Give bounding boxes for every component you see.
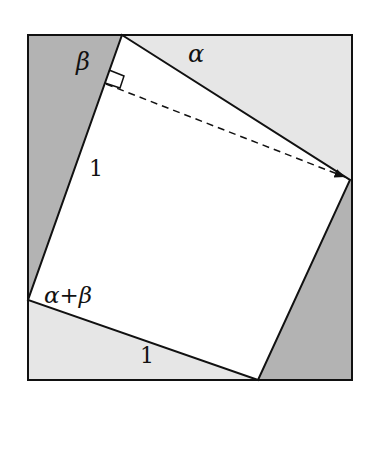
label-alpha: α (188, 40, 204, 68)
label-angle-sum: α+β (44, 282, 92, 308)
label-beta: β (75, 48, 90, 76)
label-side-bottom: 1 (140, 343, 154, 368)
label-side-left: 1 (89, 156, 103, 181)
diagram-canvas: β α 1 α+β 1 (0, 0, 378, 473)
